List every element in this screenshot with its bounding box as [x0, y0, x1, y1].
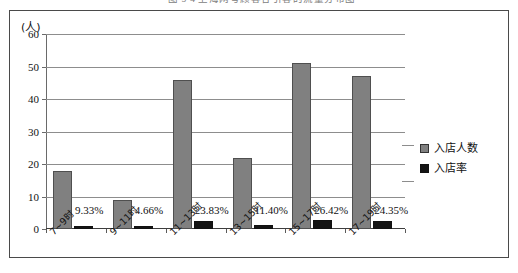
legend-swatch-icon [420, 144, 429, 153]
chart-legend: 入店人数 入店率 [414, 135, 502, 187]
y-tick-label: 10 [28, 192, 39, 203]
bar-rate[interactable] [194, 221, 213, 229]
y-tick-mark [42, 99, 46, 100]
legend-item-count[interactable]: 入店人数 [420, 142, 502, 155]
y-tick-label: 30 [28, 127, 39, 138]
legend-label: 入店率 [434, 163, 467, 174]
bar-rate[interactable] [134, 226, 153, 229]
x-axis-tick-labels: 7~9时9~11时11~13时13~15时15~17时17~19时 [46, 230, 411, 264]
y-tick-label: 40 [28, 94, 39, 105]
y-axis-tick-labels: 0102030405060 [9, 34, 39, 229]
bar-count[interactable] [292, 63, 311, 229]
y-tick-mark [42, 132, 46, 133]
figure-caption-strip: 图 5-4 上海网号顾客各引客的流量分布图 [0, 0, 518, 9]
y-tick-label: 20 [28, 159, 39, 170]
data-label-rate: 9.33% [75, 205, 103, 216]
legend-label: 入店人数 [434, 143, 478, 154]
legend-stub [402, 181, 414, 182]
y-tick-mark [42, 197, 46, 198]
figure-caption: 图 5-4 上海网号顾客各引客的流量分布图 [168, 0, 356, 5]
gridline [46, 67, 405, 68]
y-tick-label: 50 [28, 62, 39, 73]
plot-area: 9.33%4.66%23.83%11.40%26.42%24.35% [46, 34, 405, 229]
gridline [46, 197, 405, 198]
y-tick-mark [42, 34, 46, 35]
gridline [46, 99, 405, 100]
gridline [46, 132, 405, 133]
bar-rate[interactable] [254, 225, 273, 229]
legend-stub [402, 145, 414, 146]
gridline [46, 34, 405, 35]
bar-rate[interactable] [74, 226, 93, 229]
legend-swatch-icon [420, 164, 429, 173]
y-tick-mark [42, 164, 46, 165]
bar-rate[interactable] [373, 221, 392, 229]
legend-item-rate[interactable]: 入店率 [420, 162, 502, 175]
y-tick-label: 0 [34, 224, 40, 235]
chart-figure-frame: (人) 0102030405060 9.33%4.66%23.83%11.40%… [9, 10, 509, 258]
gridline [46, 164, 405, 165]
y-tick-mark [42, 67, 46, 68]
y-tick-label: 60 [28, 29, 39, 40]
bar-rate[interactable] [313, 220, 332, 229]
